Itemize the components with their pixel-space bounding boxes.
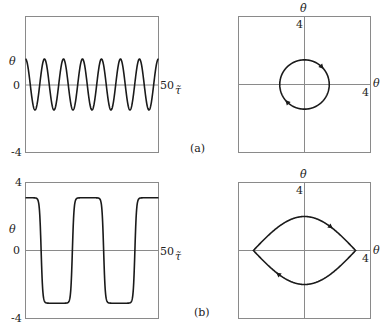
y-tick-label: -4: [11, 146, 22, 159]
y-axis-label: θ: [9, 55, 16, 68]
y-tick-label: 0: [13, 79, 20, 92]
x-tick-label: 4: [362, 252, 369, 265]
panel-label: (b): [194, 306, 210, 319]
panel-b-time-series: 4 θ 0 -4 50 τ̃: [9, 176, 182, 325]
y-tick-label: 4: [15, 176, 22, 189]
y-tick-label: 4: [296, 18, 303, 31]
panel-b-phase-portrait: θ̇ 4 4 θ (b): [194, 168, 380, 319]
y-tick-label: 4: [296, 184, 303, 197]
x-axis-label: θ: [373, 77, 380, 90]
x-axis-label: τ̃: [175, 84, 182, 97]
y-axis-label: θ̇: [300, 168, 307, 181]
panel-a-phase-portrait: θ̇ 4 4 θ (a): [190, 2, 380, 155]
y-axis-label: θ̇: [300, 2, 307, 15]
panel-a-time-series: θ 0 -4 50 τ̃: [9, 17, 182, 160]
x-axis-label: θ: [373, 244, 380, 257]
figure: θ 0 -4 50 τ̃ θ̇ 4 4 θ (a) 4 θ 0 -4 50 τ̃: [0, 0, 386, 329]
y-tick-label: -4: [11, 312, 22, 325]
x-tick-label: 4: [362, 86, 369, 99]
panel-label: (a): [190, 142, 205, 155]
y-tick-label: 0: [13, 244, 20, 257]
x-axis-label: τ̃: [175, 250, 182, 263]
x-tick-label: 50: [160, 245, 174, 258]
x-tick-label: 50: [160, 79, 174, 92]
y-axis-label: θ: [9, 223, 16, 236]
